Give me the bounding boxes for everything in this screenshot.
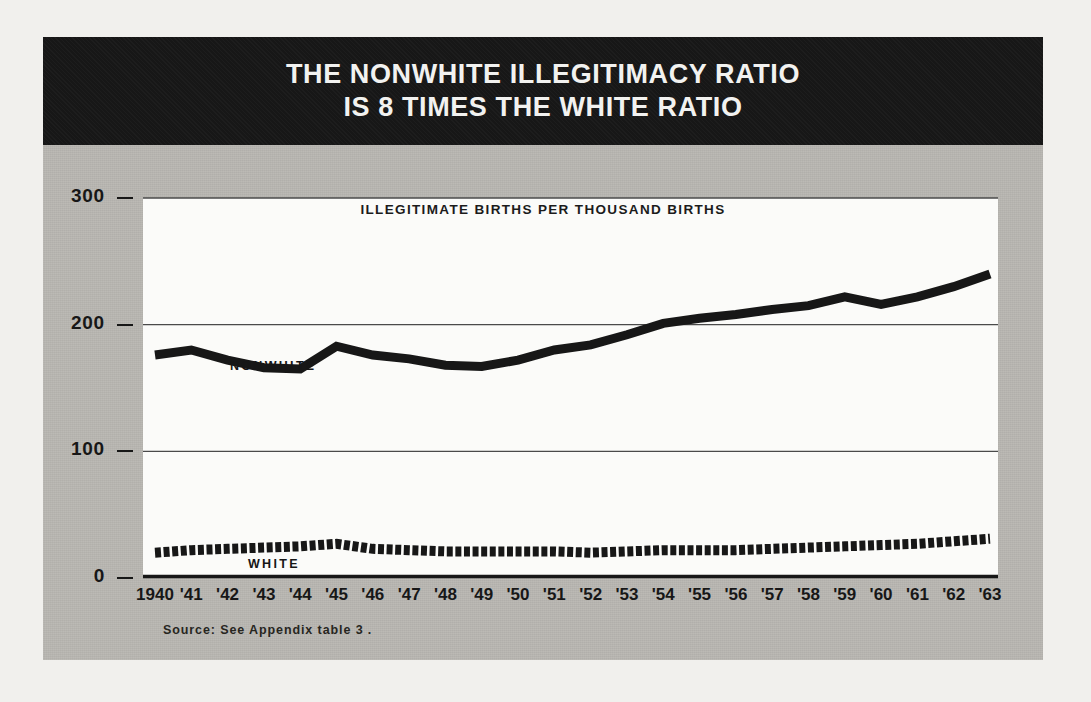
x-tick-label-1959: '59 — [833, 585, 856, 605]
x-tick-label-1948: '48 — [434, 585, 457, 605]
x-tick-label-1962: '62 — [942, 585, 965, 605]
x-axis: 1940'41'42'43'44'45'46'47'48'49'50'51'52… — [143, 585, 998, 611]
x-tick-label-1963: '63 — [979, 585, 1002, 605]
y-tick-dash-200 — [117, 324, 133, 326]
x-tick-label-1941: '41 — [180, 585, 203, 605]
y-tick-dash-300 — [117, 197, 133, 199]
source-note: Source: See Appendix table 3 . — [163, 623, 372, 637]
x-tick-label-1942: '42 — [216, 585, 239, 605]
plot-svg — [143, 198, 998, 578]
x-tick-label-1953: '53 — [615, 585, 638, 605]
x-tick-label-1954: '54 — [652, 585, 675, 605]
x-tick-label-1945: '45 — [325, 585, 348, 605]
y-tick-dash-0 — [117, 577, 133, 579]
y-tick-label-0: 0 — [47, 565, 105, 587]
chart-title-band: THE NONWHITE ILLEGITIMACY RATIO IS 8 TIM… — [43, 37, 1043, 145]
figure-panel: THE NONWHITE ILLEGITIMACY RATIO IS 8 TIM… — [43, 37, 1043, 660]
x-tick-label-1944: '44 — [289, 585, 312, 605]
x-tick-label-1946: '46 — [361, 585, 384, 605]
x-tick-label-1956: '56 — [724, 585, 747, 605]
x-tick-label-1947: '47 — [398, 585, 421, 605]
series-line-nonwhite — [155, 274, 990, 369]
y-tick-dash-100 — [117, 450, 133, 452]
x-tick-label-1960: '60 — [870, 585, 893, 605]
chart-subtitle: ILLEGITIMATE BIRTHS PER THOUSAND BIRTHS — [43, 202, 1043, 217]
chart-title-line-1: THE NONWHITE ILLEGITIMACY RATIO — [286, 58, 800, 91]
y-tick-label-300: 300 — [47, 185, 105, 207]
x-tick-label-1951: '51 — [543, 585, 566, 605]
x-tick-label-1958: '58 — [797, 585, 820, 605]
plot-area — [143, 198, 998, 578]
x-tick-label-1943: '43 — [252, 585, 275, 605]
gridlines — [143, 198, 998, 577]
x-tick-label-1952: '52 — [579, 585, 602, 605]
series-label-nonwhite: NONWHITE — [230, 359, 316, 373]
y-tick-label-100: 100 — [47, 438, 105, 460]
x-tick-label-1940: 1940 — [136, 585, 174, 605]
x-tick-label-1950: '50 — [507, 585, 530, 605]
x-tick-label-1961: '61 — [906, 585, 929, 605]
x-tick-label-1949: '49 — [470, 585, 493, 605]
x-tick-label-1957: '57 — [761, 585, 784, 605]
x-tick-label-1955: '55 — [688, 585, 711, 605]
y-tick-label-200: 200 — [47, 312, 105, 334]
page-canvas: THE NONWHITE ILLEGITIMACY RATIO IS 8 TIM… — [0, 0, 1091, 702]
chart-title-line-2: IS 8 TIMES THE WHITE RATIO — [343, 91, 742, 124]
series-label-white: WHITE — [248, 557, 300, 571]
series-line-white — [155, 539, 990, 553]
series-layer — [155, 274, 990, 553]
